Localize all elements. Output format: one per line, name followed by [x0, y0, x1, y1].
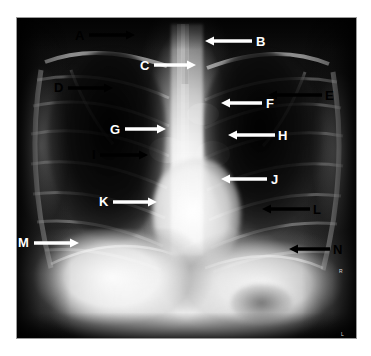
annotation-arrow-i	[92, 147, 156, 163]
annotation-arrow-k	[105, 194, 165, 210]
annotation-label-g: G	[110, 123, 120, 136]
annotation-label-a: A	[75, 29, 84, 42]
annotation-label-e: E	[325, 89, 334, 102]
annotation-arrow-c	[146, 57, 204, 73]
annotation-arrow-a	[81, 27, 143, 43]
annotation-arrow-b	[197, 33, 260, 49]
annotation-label-n: N	[333, 243, 342, 256]
annotation-label-f: F	[266, 97, 274, 110]
annotation-arrow-f	[213, 95, 270, 111]
annotation-label-d: D	[54, 81, 63, 94]
annotation-label-i: I	[92, 148, 96, 161]
annotation-label-c: C	[140, 59, 149, 72]
annotation-arrow-n	[281, 241, 338, 257]
annotation-arrow-d	[60, 80, 121, 96]
annotation-arrow-h	[220, 127, 283, 143]
annotation-label-j: J	[271, 173, 278, 186]
annotation-label-m: M	[18, 236, 29, 249]
annotated-radiograph-figure: ABCDEFGHIJKLMN RL	[0, 0, 371, 356]
film-corner-marker: L	[341, 331, 345, 337]
annotation-label-h: H	[278, 129, 287, 142]
annotation-arrow-l	[254, 201, 318, 217]
annotation-overlay: ABCDEFGHIJKLMN	[0, 0, 371, 356]
annotation-label-b: B	[256, 35, 265, 48]
annotation-arrow-g	[117, 121, 174, 137]
annotation-label-l: L	[313, 203, 321, 216]
annotation-arrow-j	[213, 171, 275, 187]
annotation-label-k: K	[99, 195, 108, 208]
film-corner-marker: R	[339, 268, 344, 274]
annotation-arrow-m	[26, 235, 87, 251]
